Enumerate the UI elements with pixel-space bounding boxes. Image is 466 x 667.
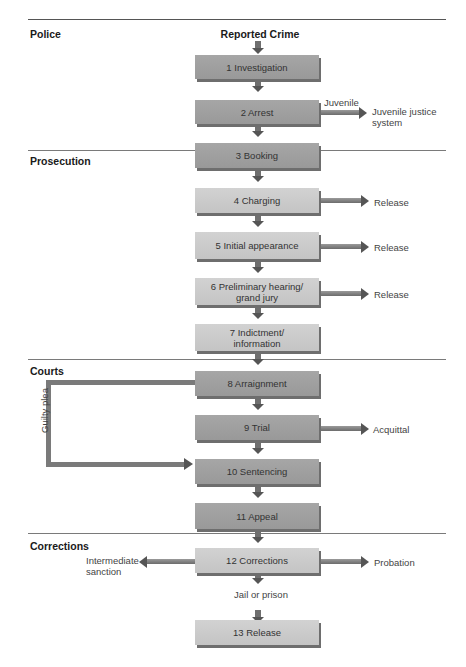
step-initial-appearance: 5 Initial appearance: [195, 232, 319, 259]
divider-corrections: [28, 533, 446, 534]
step-sentencing: 10 Sentencing: [195, 459, 319, 484]
step-booking: 3 Booking: [195, 143, 319, 168]
step-corrections: 12 Corrections: [195, 548, 319, 573]
step-label: 10 Sentencing: [227, 466, 288, 477]
jail-or-prison-label: Jail or prison: [231, 589, 291, 600]
arrow-right-icon: [321, 197, 369, 205]
step-label: 4 Charging: [234, 195, 280, 206]
step-release: 13 Release: [195, 620, 319, 645]
step-arraignment: 8 Arraignment: [195, 371, 319, 396]
step-charging: 4 Charging: [195, 188, 319, 213]
step-preliminary-hearing: 6 Preliminary hearing/ grand jury: [195, 278, 319, 305]
step-investigation: 1 Investigation: [195, 55, 319, 79]
step-label: 11 Appeal: [236, 511, 278, 522]
section-courts: Courts: [30, 365, 64, 377]
outcome-intermediate-sanction: Intermediate sanction: [86, 555, 142, 577]
step-label: 3 Booking: [236, 150, 278, 161]
guilty-plea-connector: [46, 380, 195, 385]
arrow-right-icon: [321, 243, 369, 251]
step-label: 7 Indictment/ information: [217, 327, 297, 349]
outcome-release-prelim: Release: [374, 289, 409, 300]
step-arrest: 2 Arrest: [195, 100, 319, 124]
section-corrections: Corrections: [30, 540, 89, 552]
outcome-release-initial: Release: [374, 242, 409, 253]
step-appeal: 11 Appeal: [195, 503, 319, 529]
step-label: 8 Arraignment: [227, 378, 286, 389]
arrow-right-icon: [184, 458, 193, 470]
guilty-plea-connector: [46, 462, 186, 467]
step-label: 9 Trial: [244, 422, 270, 433]
outcome-probation: Probation: [374, 557, 415, 568]
step-label: 5 Initial appearance: [216, 240, 299, 251]
outcome-release-charging: Release: [374, 197, 409, 208]
step-label: 12 Corrections: [226, 555, 288, 566]
guilty-plea-label: Guilty plea: [39, 381, 50, 441]
section-police: Police: [30, 28, 61, 40]
divider-courts: [28, 359, 446, 360]
step-label: 1 Investigation: [226, 62, 287, 73]
arrow-right-icon: [321, 290, 369, 298]
juvenile-label: Juvenile: [324, 97, 359, 108]
step-trial: 9 Trial: [195, 415, 319, 440]
section-prosecution: Prosecution: [30, 155, 91, 167]
arrow-right-icon: [321, 109, 367, 117]
top-rule: [28, 19, 446, 20]
step-label: 13 Release: [233, 627, 281, 638]
outcome-juvenile-justice: Juvenile justice system: [372, 106, 452, 128]
step-label: 2 Arrest: [241, 107, 274, 118]
arrow-right-icon: [321, 425, 369, 433]
step-label: 6 Preliminary hearing/ grand jury: [205, 281, 309, 303]
arrow-left-icon: [139, 558, 195, 566]
arrow-right-icon: [321, 558, 369, 566]
step-indictment: 7 Indictment/ information: [195, 324, 319, 351]
diagram-title: Reported Crime: [200, 28, 320, 40]
outcome-acquittal: Acquittal: [373, 424, 409, 435]
